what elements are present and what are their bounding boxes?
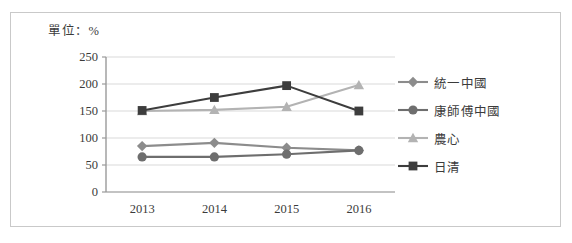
data-point [138, 106, 147, 115]
x-axis-tick-label: 2014 [184, 202, 244, 217]
series-line [142, 86, 359, 111]
legend-marker-shape [408, 77, 418, 87]
x-axis-tick-label: 2013 [112, 202, 172, 217]
data-point [354, 80, 364, 89]
legend-marker-glyph [396, 157, 430, 175]
series-line [142, 85, 359, 111]
legend-label: 農心 [430, 129, 461, 148]
data-point [282, 150, 291, 159]
y-axis-tick-label: 200 [56, 77, 98, 92]
diamond-icon [396, 73, 430, 91]
data-point [354, 146, 363, 155]
series-circle [138, 146, 364, 162]
data-point [137, 141, 147, 151]
triangle-icon [396, 129, 430, 147]
legend-marker-glyph [396, 73, 430, 91]
legend-item[interactable]: 統一中國 [396, 68, 546, 96]
legend-marker-shape [409, 162, 418, 171]
legend-item[interactable]: 康師傅中國 [396, 96, 546, 124]
series-line [142, 150, 359, 156]
legend-marker-glyph [396, 101, 430, 119]
series-line [142, 143, 359, 151]
data-point [210, 152, 219, 161]
y-axis-tick-label: 50 [56, 158, 98, 173]
legend-label: 日清 [430, 157, 461, 176]
legend-marker-shape [408, 105, 417, 114]
y-axis-tick-label: 250 [56, 50, 98, 65]
chart-legend: 統一中國康師傅中國農心日清 [396, 68, 546, 180]
x-axis-tick-label: 2015 [257, 202, 317, 217]
legend-label: 統一中國 [430, 73, 487, 92]
square-icon [396, 157, 430, 175]
data-point [354, 107, 363, 116]
y-axis-tick-label: 150 [56, 104, 98, 119]
data-point [210, 93, 219, 102]
data-point [209, 138, 219, 148]
y-axis-tick-label: 100 [56, 131, 98, 146]
y-axis-tick-label: 0 [56, 185, 98, 200]
data-point [138, 152, 147, 161]
legend-item[interactable]: 日清 [396, 152, 546, 180]
series-triangle [137, 80, 364, 115]
legend-marker-glyph [396, 129, 430, 147]
circle-icon [396, 101, 430, 119]
legend-label: 康師傅中國 [430, 101, 501, 120]
legend-item[interactable]: 農心 [396, 124, 546, 152]
x-axis-tick-label: 2016 [329, 202, 389, 217]
data-point [282, 81, 291, 90]
